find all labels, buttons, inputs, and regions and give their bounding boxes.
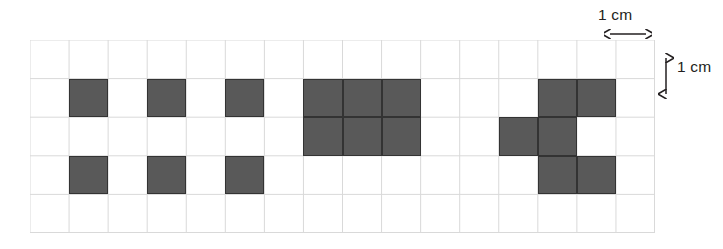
centimetre-grid	[30, 40, 655, 233]
horizontal-scale-arrow-icon	[604, 26, 652, 42]
shape-zigzag-hexomino	[30, 40, 655, 233]
unit-square	[538, 117, 577, 156]
shapes-layer	[30, 40, 655, 233]
unit-square	[577, 156, 616, 195]
vertical-scale-label: 1 cm	[677, 58, 711, 76]
unit-square	[538, 156, 577, 195]
horizontal-scale-label: 1 cm	[598, 6, 632, 24]
unit-square	[577, 79, 616, 118]
vertical-scale-arrow-icon	[658, 52, 674, 100]
unit-square	[499, 117, 538, 156]
figure-canvas: 1 cm 1 cm	[0, 0, 723, 249]
unit-square	[538, 79, 577, 118]
